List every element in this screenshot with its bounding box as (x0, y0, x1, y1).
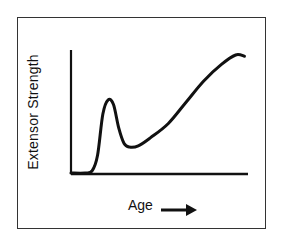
y-axis-label: Extensor Strength (25, 54, 41, 169)
arrow-icon (161, 204, 197, 216)
x-axis-label: Age (128, 197, 153, 213)
strength-curve (71, 55, 244, 174)
